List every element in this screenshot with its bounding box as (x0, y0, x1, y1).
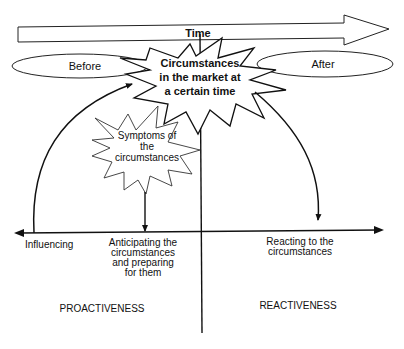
proactive-reactive-diagram: Time Before After Circumstances in the m… (0, 0, 404, 349)
symptoms-line-1: Symptoms of (118, 130, 177, 141)
central-event-line-3: a certain time (165, 85, 236, 97)
reactiveness-label: REACTIVENESS (259, 300, 337, 311)
anticipating-line-4: for them (125, 267, 162, 278)
horizontal-axis-line (20, 230, 380, 233)
right-arrowhead-icon (374, 226, 384, 234)
left-arrowhead-icon (14, 229, 24, 237)
symptoms-starburst: Symptoms of the circumstances (92, 106, 200, 194)
reacting-curve-arrow (255, 92, 318, 220)
symptoms-line-2: the (140, 141, 154, 152)
anticipating-label: Anticipating the circumstances and prepa… (109, 237, 178, 278)
before-label: Before (69, 60, 101, 72)
central-event-starburst: Circumstances in the market at a certain… (120, 38, 286, 134)
symptoms-line-3: circumstances (115, 152, 179, 163)
influencing-label: Influencing (25, 239, 73, 250)
proactiveness-label: PROACTIVENESS (59, 303, 144, 314)
central-event-line-1: Circumstances (161, 57, 240, 69)
after-ellipse: After (257, 51, 393, 77)
time-label: Time (185, 27, 210, 39)
after-label: After (311, 58, 335, 70)
reacting-label: Reacting to the circumstances (266, 236, 334, 257)
reacting-line-2: circumstances (268, 246, 332, 257)
central-event-line-2: in the market at (159, 71, 241, 83)
time-arrow: Time (18, 15, 389, 45)
